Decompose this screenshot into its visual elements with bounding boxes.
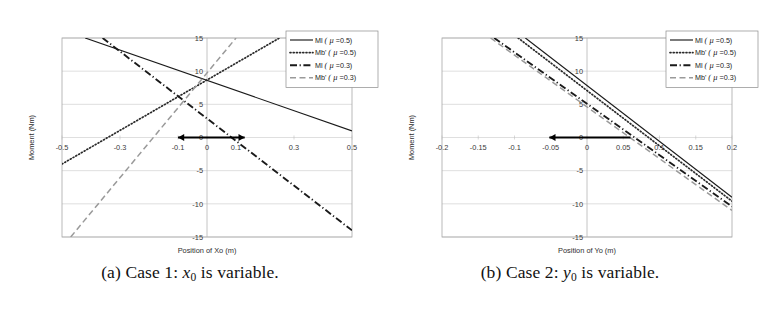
legend-label: Ml ( μ =0.5)	[695, 36, 732, 45]
legend-label: Ml ( μ =0.3)	[695, 61, 732, 70]
x-tick-label: -0.15	[470, 143, 487, 152]
y-tick-label: 10	[195, 67, 203, 76]
legend-label: Mb' ( μ =0.3)	[695, 73, 736, 82]
caption-a-prefix: (a)	[101, 262, 121, 282]
x-tick-label: -0.2	[436, 143, 449, 152]
y-tick-label: 5	[199, 100, 203, 109]
x-tick-label: -0.3	[114, 143, 127, 152]
figure-panel-a: -0.5-0.3-0.100.10.30.5151050-5-10-15Posi…	[0, 0, 380, 309]
x-tick-label: 0.1	[231, 143, 241, 152]
figure-panel-b: -0.2-0.15-0.1-0.0500.050.10.150.2151050-…	[380, 0, 760, 309]
x-tick-label: 0.5	[347, 143, 357, 152]
plot-area-b: -0.2-0.15-0.1-0.0500.050.10.150.2151050-…	[380, 0, 760, 262]
legend-label: Ml ( μ =0.3)	[315, 61, 352, 70]
caption-b-suffix: is variable.	[581, 262, 659, 282]
x-tick-label: 0	[205, 143, 209, 152]
x-tick-label: -0.05	[542, 143, 559, 152]
x-axis-title: Position of Yo (m)	[558, 246, 616, 255]
caption-b-prefix: (b)	[481, 262, 502, 282]
y-tick-label: -15	[572, 233, 583, 242]
caption-b-variable: y0	[563, 262, 577, 282]
caption-a-variable: x0	[183, 262, 197, 282]
y-tick-label: -15	[192, 233, 203, 242]
plot-area-a: -0.5-0.3-0.100.10.30.5151050-5-10-15Posi…	[0, 0, 380, 262]
legend-label: Mb' ( μ =0.3)	[315, 73, 356, 82]
figure-container: -0.5-0.3-0.100.10.30.5151050-5-10-15Posi…	[0, 0, 760, 309]
y-tick-label: 15	[575, 34, 583, 43]
chart-legend: Ml ( μ =0.5)Mb' ( μ =0.5)Ml ( μ =0.3)Mb'…	[286, 31, 378, 87]
x-tick-label: -0.5	[56, 143, 69, 152]
y-tick-label: 15	[195, 34, 203, 43]
y-tick-label: 10	[575, 67, 583, 76]
y-tick-label: -5	[576, 166, 583, 175]
y-axis-title: Moment (Nm)	[27, 115, 36, 160]
y-tick-label: -10	[192, 200, 203, 209]
y-tick-label: -5	[196, 166, 203, 175]
caption-b-text: Case 2:	[506, 262, 559, 282]
chart-a: -0.5-0.3-0.100.10.30.5151050-5-10-15Posi…	[0, 0, 380, 262]
x-tick-label: 0.1	[654, 143, 664, 152]
chart-b: -0.2-0.15-0.1-0.0500.050.10.150.2151050-…	[380, 0, 760, 262]
caption-a-text: Case 1:	[125, 262, 178, 282]
chart-legend: Ml ( μ =0.5)Mb' ( μ =0.5)Ml ( μ =0.3)Mb'…	[666, 31, 758, 87]
x-tick-label: 0.05	[616, 143, 630, 152]
legend-label: Ml ( μ =0.5)	[315, 36, 352, 45]
x-tick-label: 0.2	[727, 143, 737, 152]
x-axis-title: Position of Xo (m)	[178, 246, 237, 255]
legend-label: Mb' ( μ =0.5)	[695, 48, 736, 57]
y-axis-title: Moment (Nm)	[407, 115, 416, 160]
x-tick-label: 0	[585, 143, 589, 152]
x-tick-label: -0.1	[172, 143, 185, 152]
legend-label: Mb' ( μ =0.5)	[315, 48, 356, 57]
y-tick-label: 5	[579, 100, 583, 109]
y-tick-label: -10	[572, 200, 583, 209]
x-tick-label: 0.15	[689, 143, 703, 152]
caption-a: (a) Case 1: x0 is variable.	[0, 262, 380, 283]
x-tick-label: 0.3	[289, 143, 299, 152]
caption-a-suffix: is variable.	[201, 262, 279, 282]
x-tick-label: -0.1	[508, 143, 521, 152]
caption-b: (b) Case 2: y0 is variable.	[380, 262, 760, 283]
